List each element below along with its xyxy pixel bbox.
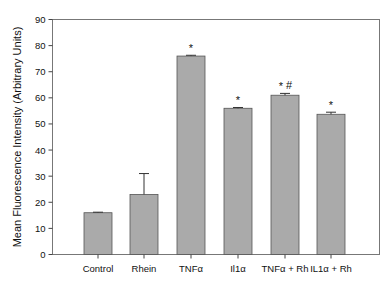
y-tick-label: 80 xyxy=(35,40,46,51)
y-axis: 0102030405060708090 xyxy=(35,14,53,260)
y-axis-label: Mean Fluorescence Intensity (Arbitrary U… xyxy=(11,27,23,248)
y-tick-label: 10 xyxy=(35,223,46,234)
significance-marker: * xyxy=(279,80,284,92)
y-tick-label: 60 xyxy=(35,92,46,103)
significance-marker: * xyxy=(236,94,241,106)
bar xyxy=(317,114,345,254)
y-tick-label: 20 xyxy=(35,197,46,208)
x-tick-label: Rhein xyxy=(132,263,157,274)
bar xyxy=(84,213,112,255)
bar xyxy=(177,56,205,254)
x-tick-label: Il1α xyxy=(230,263,246,274)
bar xyxy=(224,108,252,254)
x-tick-label: Control xyxy=(83,263,114,274)
x-tick-label: IL1α + Rh xyxy=(310,263,352,274)
significance-marker: * xyxy=(329,99,334,111)
bar xyxy=(271,95,299,254)
x-tick-label: TNFα xyxy=(179,263,203,274)
y-tick-label: 0 xyxy=(40,249,45,260)
x-tick-label: TNFα + Rh xyxy=(262,263,309,274)
y-tick-label: 40 xyxy=(35,145,46,156)
x-axis: ControlRheinTNFαIl1αTNFα + RhIL1α + Rh xyxy=(83,255,352,274)
y-tick-label: 90 xyxy=(35,14,46,25)
bar-chart: 0102030405060708090 ***#* ControlRheinTN… xyxy=(0,0,392,286)
y-tick-label: 50 xyxy=(35,118,46,129)
significance-marker: * xyxy=(189,42,194,54)
y-tick-label: 30 xyxy=(35,171,46,182)
bars: ***#* xyxy=(84,42,345,254)
bar xyxy=(130,194,158,254)
y-tick-label: 70 xyxy=(35,66,46,77)
significance-marker: # xyxy=(286,79,293,91)
